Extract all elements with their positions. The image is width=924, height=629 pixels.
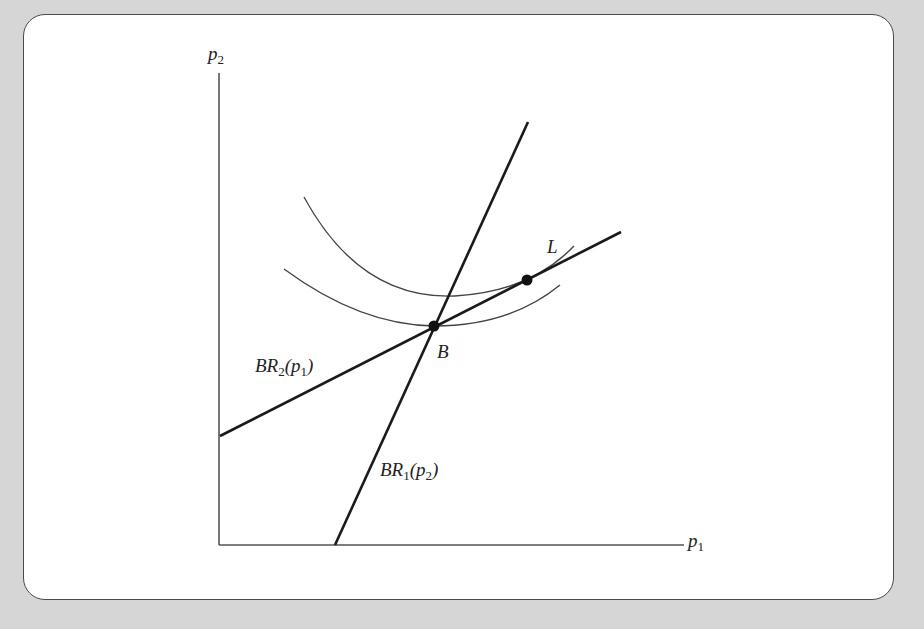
diagram-canvas — [0, 0, 924, 629]
point-b-label: B — [437, 342, 449, 361]
iso-profit-curve-upper — [304, 197, 574, 296]
y-axis-label: p2 — [208, 44, 224, 66]
point-l-label: L — [547, 237, 558, 256]
point-l — [522, 275, 533, 286]
br2-line — [220, 232, 621, 436]
iso-profit-curve-lower — [284, 269, 560, 326]
br1-label: BR1(p2) — [380, 460, 438, 482]
br2-label: BR2(p1) — [255, 356, 313, 378]
x-axis-label: p1 — [688, 531, 704, 553]
point-b — [429, 321, 440, 332]
